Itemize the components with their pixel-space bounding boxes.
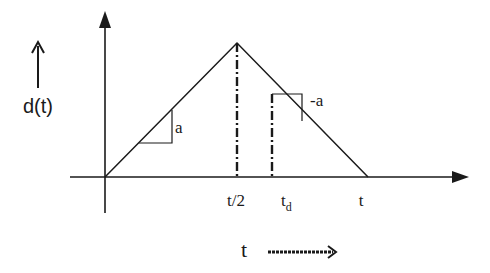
y-axis-label: d(t) — [23, 95, 53, 117]
x-axis-label: t — [241, 237, 247, 262]
x-axis-arrowhead-icon — [452, 171, 469, 183]
tick-label-td: td — [281, 191, 292, 214]
falling-slope-label: -a — [310, 91, 324, 110]
rising-slope-label: a — [175, 118, 183, 137]
y-axis-arrowhead-icon — [99, 11, 111, 28]
falling-slope-indicator — [272, 94, 302, 121]
x-direction-arrow-icon — [268, 246, 336, 258]
tick-label-end: t — [359, 191, 364, 210]
x-axis — [70, 171, 469, 183]
tick-label-half: t/2 — [227, 191, 245, 210]
y-axis — [99, 11, 111, 213]
diagram-canvas: a -a t/2 td t d(t) t — [0, 0, 490, 273]
y-direction-arrow-icon — [32, 42, 44, 88]
